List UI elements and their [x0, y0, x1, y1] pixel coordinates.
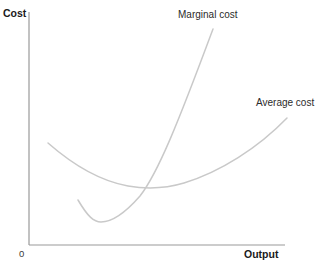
marginal-cost-curve — [78, 29, 213, 222]
origin-label: 0 — [19, 249, 24, 259]
y-axis-label: Cost — [3, 8, 26, 19]
marginal-cost-series-label: Marginal cost — [178, 10, 237, 20]
plot-area — [0, 0, 323, 269]
x-axis-label: Output — [244, 249, 278, 260]
average-cost-curve — [48, 118, 287, 188]
cost-curves-chart: Cost Output 0 Marginal cost Average cost — [0, 0, 323, 269]
average-cost-series-label: Average cost — [256, 98, 314, 108]
